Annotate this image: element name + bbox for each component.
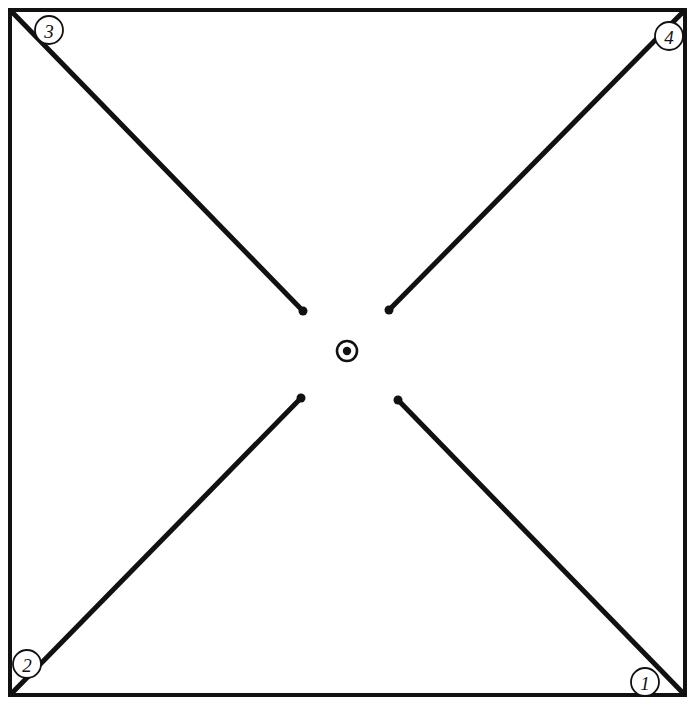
reference-label-3: 3 [35, 16, 63, 44]
endpoint-dot-line-2 [297, 394, 306, 403]
reference-label-4-text: 4 [664, 27, 674, 48]
endpoint-dot-line-1 [394, 396, 403, 405]
radial-line-to-corner-2 [13, 398, 301, 692]
technical-line-drawing: 3 4 2 1 [0, 0, 695, 708]
reference-label-1-text: 1 [640, 673, 650, 694]
diagram-canvas: 3 4 2 1 [0, 0, 695, 708]
endpoint-dot-line-4 [385, 306, 394, 315]
reference-label-3-text: 3 [43, 21, 54, 42]
reference-label-4: 4 [655, 22, 683, 50]
endpoint-dot-line-3 [299, 307, 308, 316]
reference-label-2: 2 [13, 650, 41, 678]
reference-label-1: 1 [631, 668, 659, 696]
radial-line-to-corner-4 [389, 13, 682, 310]
reference-label-2-text: 2 [22, 655, 32, 676]
radial-line-to-corner-3 [13, 13, 303, 311]
radial-line-to-corner-1 [398, 400, 682, 692]
center-mark-dot [343, 347, 351, 355]
